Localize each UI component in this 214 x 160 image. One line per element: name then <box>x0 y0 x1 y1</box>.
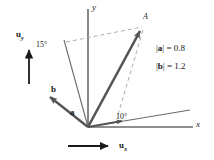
construction-line-a-parallel <box>66 27 142 42</box>
magnitude-a-symbol: a <box>158 43 163 53</box>
angle-10-label: 10° <box>116 113 127 121</box>
vector-resultant <box>88 31 140 127</box>
vector-diagram-figure: y x A 15° 10° b a |a| = 0.8 |b| = 1.2 uy… <box>0 0 214 160</box>
construction-line-b-parallel <box>117 30 143 118</box>
y-axis-label: y <box>92 3 96 12</box>
magnitude-b-value: = 1.2 <box>167 61 186 71</box>
unit-vector-ux-label: ux <box>119 141 127 152</box>
magnitude-a-value: = 0.8 <box>166 43 185 53</box>
angle-15-label: 15° <box>36 41 47 49</box>
x-axis-label: x <box>196 120 200 129</box>
unit-vector-ux-sub: x <box>124 145 127 152</box>
magnitude-b-label: |b| = 1.2 <box>156 62 185 71</box>
ray-b-direction <box>64 40 88 127</box>
magnitude-a-label: |a| = 0.8 <box>156 44 185 53</box>
unit-vector-uy-sub: y <box>21 34 24 41</box>
magnitude-b-symbol: b <box>158 61 163 71</box>
unit-vector-uy-label: uy <box>16 30 24 41</box>
point-a-label: A <box>143 13 148 21</box>
diagram-canvas <box>0 0 214 160</box>
vector-b <box>50 97 88 127</box>
vector-a <box>88 121 122 127</box>
vector-a-label: a <box>70 108 75 117</box>
vector-b-label: b <box>51 85 56 94</box>
